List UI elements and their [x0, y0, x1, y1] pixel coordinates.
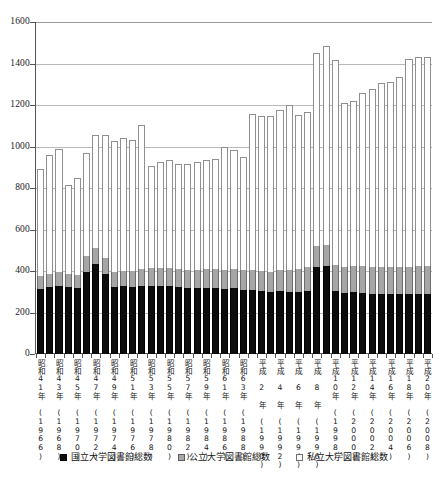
x-axis-tick-mark [285, 354, 286, 358]
bar-column [424, 57, 431, 354]
bar-segment-national [74, 288, 81, 354]
bar-segment-national [323, 266, 330, 354]
bar-column [83, 153, 90, 354]
bar-segment-private [83, 153, 90, 257]
legend-label: 私立大学図書館総数 [307, 452, 388, 462]
bar-segment-private [249, 114, 256, 270]
bar-column [359, 93, 366, 354]
x-axis-tick-mark [340, 354, 341, 358]
bar-segment-private [304, 112, 311, 267]
bar-segment-national [221, 289, 228, 354]
x-axis-tick-label: 昭和59年 (1984) [202, 359, 210, 460]
bar-segment-national [240, 290, 247, 354]
bar-segment-national [359, 293, 366, 354]
bar-segment-public [212, 269, 219, 288]
bar-segment-private [378, 83, 385, 267]
x-axis-tick-label: 平成10年 (1998) [331, 359, 339, 460]
bar-segment-private [194, 162, 201, 270]
bar-segment-public [92, 248, 99, 264]
bar-segment-national [46, 287, 53, 354]
bar-segment-public [249, 270, 256, 290]
bar-segment-public [276, 270, 283, 291]
y-axis-tick-label: 1200 [10, 100, 30, 110]
bar-segment-national [267, 292, 274, 354]
bar-segment-private [359, 93, 366, 266]
bar-column [249, 114, 256, 354]
bar-segment-private [102, 135, 109, 257]
bar-column [46, 155, 53, 354]
bar-segment-private [415, 57, 422, 267]
x-axis-tick-label: 平成14年 (2002) [368, 359, 376, 460]
x-axis-tick-label: 昭和43年 (1968) [55, 359, 63, 460]
bar-segment-public [194, 270, 201, 288]
x-axis-tick-mark [248, 354, 249, 358]
bar-column [212, 159, 219, 354]
x-axis-tick-mark [36, 354, 37, 358]
x-axis-tick-mark [432, 354, 433, 358]
bars-layer [36, 22, 432, 354]
x-axis-tick-mark [303, 354, 304, 358]
bar-segment-private [157, 162, 164, 268]
bar-column [203, 160, 210, 354]
national-swatch [60, 454, 67, 461]
stacked-bar-chart: 02004006008001000120014001600 昭和41年 (196… [0, 0, 448, 479]
bar-segment-public [111, 272, 118, 287]
legend-item[interactable]: 私立大学図書館総数 [296, 452, 388, 462]
bar-segment-public [148, 268, 155, 286]
bar-column [267, 116, 274, 354]
bar-segment-public [424, 266, 431, 293]
bar-segment-public [313, 246, 320, 267]
bar-column [102, 135, 109, 354]
bar-segment-public [102, 258, 109, 275]
x-axis-tick-mark [229, 354, 230, 358]
bar-segment-national [424, 294, 431, 354]
bar-segment-national [138, 286, 145, 354]
bar-column [258, 116, 265, 354]
bar-segment-national [55, 286, 62, 354]
bar-segment-national [129, 287, 136, 354]
bar-segment-national [83, 272, 90, 354]
bar-column [405, 59, 412, 354]
x-axis-tick-mark [239, 354, 240, 358]
y-axis-tick-label: 1400 [10, 59, 30, 69]
legend-item[interactable]: 公立大学図書館総数 [178, 452, 270, 462]
bar-column [304, 112, 311, 354]
bar-segment-public [83, 256, 90, 272]
x-axis-tick-label: 昭和53年 (1978) [147, 359, 155, 460]
bar-segment-national [230, 288, 237, 354]
x-axis-tick-label: 昭和47年 (1972) [91, 359, 99, 460]
x-axis-tick-mark [358, 354, 359, 358]
bar-column [55, 149, 62, 354]
bar-segment-private [387, 82, 394, 267]
x-axis-tick-mark [312, 354, 313, 358]
x-axis-tick-mark [100, 354, 101, 358]
bar-segment-public [240, 270, 247, 290]
bar-segment-private [240, 157, 247, 270]
bar-segment-national [102, 274, 109, 354]
bar-segment-private [323, 46, 330, 245]
bar-segment-public [323, 245, 330, 266]
bar-segment-national [120, 286, 127, 354]
bar-segment-public [120, 271, 127, 286]
legend-item[interactable]: 国立大学図書館総数 [60, 452, 152, 462]
bar-segment-private [369, 89, 376, 266]
bar-segment-public [341, 267, 348, 293]
bar-segment-private [46, 155, 53, 274]
x-axis-tick-mark [331, 354, 332, 358]
bar-segment-public [203, 269, 210, 288]
bar-column [129, 140, 136, 354]
bar-segment-private [286, 105, 293, 270]
bar-column [323, 46, 330, 354]
bar-segment-private [166, 160, 173, 268]
bar-segment-private [341, 103, 348, 267]
bar-segment-public [387, 267, 394, 294]
bar-column [194, 162, 201, 354]
y-axis-tick-label: 200 [15, 308, 30, 318]
bar-segment-national [258, 291, 265, 354]
x-axis-tick-mark [294, 354, 295, 358]
x-axis-tick-mark [137, 354, 138, 358]
y-axis-tick-mark [30, 354, 35, 355]
bar-column [166, 160, 173, 354]
bar-segment-public [65, 274, 72, 286]
x-axis-tick-mark [349, 354, 350, 358]
